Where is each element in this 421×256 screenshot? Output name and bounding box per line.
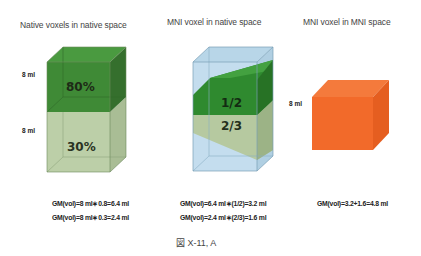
figure-caption: 図 X-11, A — [176, 236, 216, 249]
formula-mni-mni: GM(vol)=3.2+1.6=4.8 ml — [317, 200, 388, 207]
formula-native-top: GM(vol)=8 ml∗0.8=6.4 ml — [52, 200, 129, 208]
mni-voxel-mni-cube — [312, 80, 389, 150]
segment-label-two-thirds: 2/3 — [221, 119, 242, 133]
segment-label-half: 1/2 — [221, 96, 242, 110]
segment-label-80: 80% — [66, 80, 95, 94]
formula-mni-native-bottom: GM(vol)=2.4 ml∗(2/3)=1.6 ml — [180, 214, 266, 222]
formula-native-bottom: GM(vol)=8 ml∗0.3=2.4 ml — [52, 214, 129, 222]
segment-label-30: 30% — [67, 140, 96, 154]
formula-mni-native-top: GM(vol)=6.4 ml∗(1/2)=3.2 ml — [180, 200, 266, 208]
